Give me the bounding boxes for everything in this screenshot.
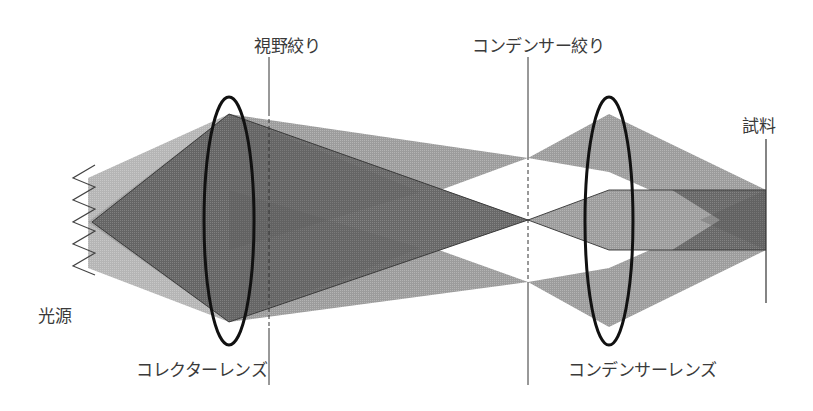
light-source-label: 光源 [38,302,71,327]
sample-label: 試料 [742,112,775,137]
kohler-illumination-diagram [0,0,813,411]
field-stop-label: 視野絞り [254,32,320,57]
condenser-lens-label: コンデンサーレンズ [568,356,717,381]
condenser-stop-label: コンデンサー絞り [472,32,604,57]
collector-lens-label: コレクターレンズ [136,356,267,381]
